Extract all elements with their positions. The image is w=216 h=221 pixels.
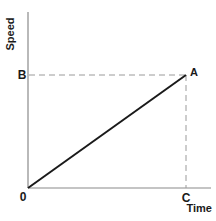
y-axis-label: Speed (4, 17, 16, 50)
point-c-label: C (182, 191, 191, 205)
speed-line (28, 75, 186, 188)
origin-label: 0 (20, 190, 27, 204)
point-a-label: A (190, 66, 198, 78)
speed-time-diagram: Speed Time 0 B C A (0, 0, 216, 221)
point-b-label: B (18, 68, 27, 82)
